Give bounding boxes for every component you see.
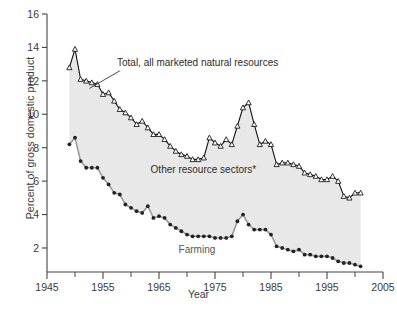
svg-text:10: 10 — [27, 108, 39, 120]
svg-text:2: 2 — [33, 242, 39, 254]
svg-text:1955: 1955 — [91, 281, 115, 293]
svg-text:16: 16 — [27, 8, 39, 20]
svg-text:8: 8 — [33, 142, 39, 154]
svg-text:1985: 1985 — [259, 281, 283, 293]
svg-text:2005: 2005 — [371, 281, 395, 293]
chart-figure: Percent of gross domestic product Year 2… — [0, 0, 397, 311]
fill-band — [69, 49, 360, 266]
svg-text:4: 4 — [33, 208, 39, 220]
svg-text:1945: 1945 — [35, 281, 59, 293]
svg-text:1995: 1995 — [315, 281, 339, 293]
total-label: Total, all marketed natural resources — [117, 57, 278, 68]
chart-plot-area: 2468101214161945195519651975198519952005… — [0, 0, 397, 311]
svg-text:6: 6 — [33, 175, 39, 187]
svg-text:1975: 1975 — [203, 281, 227, 293]
farming-label: Farming — [179, 244, 216, 255]
other-label: Other resource sectors* — [151, 164, 257, 175]
svg-text:14: 14 — [27, 41, 39, 53]
svg-text:1965: 1965 — [147, 281, 171, 293]
svg-text:12: 12 — [27, 75, 39, 87]
